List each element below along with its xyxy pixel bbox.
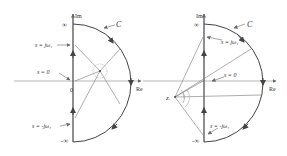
- left-inf-top-label: ∞: [62, 21, 67, 29]
- right-inf-top-label: ∞: [194, 21, 199, 29]
- nyquist-contour-figure: Im ∞ C s = jω₁ s = 0 0 Re s = -jω₁ -∞: [0, 0, 287, 156]
- left-diagram: Im ∞ C s = jω₁ s = 0 0 Re s = -jω₁ -∞: [14, 13, 143, 145]
- left-im-label: Im: [75, 13, 82, 19]
- left-inf-bottom-label: -∞: [61, 137, 68, 145]
- right-re-label: Re: [269, 86, 276, 92]
- right-contour-label: C: [247, 20, 253, 29]
- right-diagram: Im ∞ C s = jω₁ s = 0 zᵢ Re s = -jω₁ -∞: [143, 13, 276, 145]
- right-inf-bottom-label: -∞: [192, 137, 199, 145]
- left-contour-label: C: [116, 20, 122, 29]
- left-pole-point: [99, 70, 101, 72]
- left-origin-label: 0: [70, 87, 73, 93]
- right-pole-point: [174, 96, 176, 98]
- right-pole-vectors: [175, 37, 262, 135]
- left-jw-pos-label: s = jω₁: [35, 42, 52, 48]
- left-jw-neg-label: s = -jω₁: [32, 123, 51, 129]
- left-zero-label: s = 0: [37, 69, 49, 75]
- right-zero-label: s = 0: [224, 72, 236, 78]
- right-im-label: Im: [196, 13, 203, 19]
- right-jw-pos-label: s = jω₁: [221, 39, 238, 45]
- left-contour-semicircle: [73, 24, 131, 142]
- left-pole-vectors: [75, 45, 120, 118]
- right-pole-label: zᵢ: [165, 94, 170, 102]
- right-jw-neg-label: s = -jω₁: [210, 123, 229, 129]
- left-re-label: Re: [136, 86, 143, 92]
